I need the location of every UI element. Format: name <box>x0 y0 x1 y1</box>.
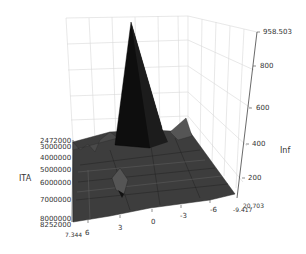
x-tick-neg6: -6 <box>210 207 217 214</box>
y-tick-4000000: 4000000 <box>40 155 71 162</box>
z-tick-400: 400 <box>252 141 265 148</box>
x-tick-6: 6 <box>85 230 89 237</box>
z-tick-600: 600 <box>256 105 269 112</box>
y-tick-5000000: 5000000 <box>40 167 71 174</box>
x-tick-7.344: 7.344 <box>65 232 82 238</box>
z-tick-958.503: 958.503 <box>263 29 292 36</box>
x-tick-3: 3 <box>118 225 122 232</box>
y-tick-3000000: 3000000 <box>40 144 71 151</box>
surface <box>73 22 235 222</box>
y-tick-6000000: 6000000 <box>40 180 71 187</box>
x-tick-neg3: -3 <box>180 213 187 220</box>
y-tick-7000000: 7000000 <box>40 197 71 204</box>
y-tick-8252000: 8252000 <box>40 222 71 229</box>
z-tick-800: 800 <box>260 63 273 70</box>
x-tick-0: 0 <box>151 219 155 226</box>
z-tick-200: 200 <box>248 175 261 182</box>
z-axis-title: Inf <box>280 146 290 155</box>
z-tick-20.703: 20.703 <box>243 203 264 209</box>
y-axis-title: ITA <box>19 174 31 183</box>
